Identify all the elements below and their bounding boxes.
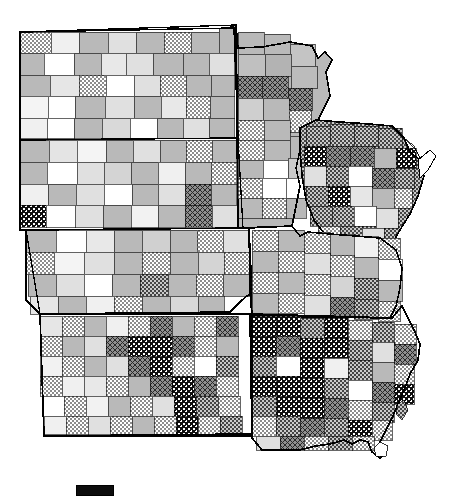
state-north-dakota (20, 28, 238, 140)
state-missouri (250, 306, 420, 458)
map-body (20, 25, 436, 458)
figure-root (0, 0, 458, 496)
state-nebraska (26, 228, 252, 314)
state-kansas (40, 314, 252, 436)
swatch-highest-class (76, 485, 114, 496)
state-south-dakota (20, 138, 243, 230)
state-iowa (249, 226, 402, 321)
state-wisconsin (300, 120, 436, 250)
county-choropleth-map[interactable] (0, 0, 458, 462)
map-legend (0, 462, 458, 496)
legend-entry-0 (76, 485, 122, 496)
